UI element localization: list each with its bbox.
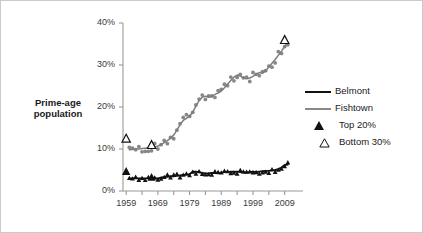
y-axis-tick-label: 20%: [85, 101, 115, 111]
y-axis-tick-label: 10%: [85, 143, 115, 153]
chart-legend: BelmontFishtownTop 20%Bottom 30%: [305, 83, 417, 151]
legend-line-swatch-icon: [305, 83, 331, 100]
y-axis-tick-label: 0%: [85, 185, 115, 195]
legend-line-icon: [305, 91, 331, 93]
legend-item-label: Fishtown: [335, 102, 373, 113]
legend-line-swatch-icon: [305, 100, 331, 117]
legend-item-belmont[interactable]: Belmont: [305, 83, 417, 100]
legend-item-top-20[interactable]: Top 20%: [305, 117, 417, 134]
legend-item-label: Bottom 30%: [339, 136, 391, 147]
legend-item-label: Top 20%: [339, 119, 376, 130]
legend-filled-triangle-swatch-icon: [305, 117, 331, 134]
filled-triangle-icon: [314, 121, 324, 130]
y-axis-tick-label: 30%: [85, 59, 115, 69]
chart-frame: Prime-age population BelmontFishtownTop …: [0, 0, 423, 233]
legend-line-icon: [305, 108, 331, 110]
legend-item-fishtown[interactable]: Fishtown: [305, 100, 417, 117]
legend-open-triangle-swatch-icon: [305, 134, 331, 151]
x-axis-tick-label: 2009: [265, 198, 305, 208]
legend-item-label: Belmont: [335, 85, 370, 96]
legend-item-bottom-30[interactable]: Bottom 30%: [305, 134, 417, 151]
y-axis-tick-label: 40%: [85, 17, 115, 27]
